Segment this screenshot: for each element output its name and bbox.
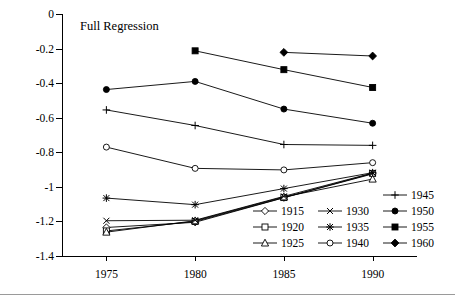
marker-open-triangle: [103, 228, 110, 235]
y-axis-tick: [56, 221, 62, 222]
marker-filled-circle: [192, 78, 198, 84]
marker-open-circle: [192, 165, 198, 171]
series-1955: [192, 48, 376, 91]
marker-filled-circle: [281, 106, 287, 112]
chart-figure: 0-0.2-0.4-0.6-0.8-1-1.2-1.4 Full Regress…: [0, 0, 455, 303]
legend-item-1950[interactable]: 1950: [382, 203, 434, 219]
y-axis-tick: [56, 83, 62, 84]
y-axis-tick-label: -1: [44, 181, 54, 193]
legend-item-label: 1935: [343, 221, 369, 233]
legend-column: 193019351940: [317, 203, 369, 251]
legend-item-label: 1915: [278, 205, 304, 217]
y-axis-tick-label: -0.2: [36, 43, 54, 55]
marker-open-triangle: [369, 175, 376, 182]
marker-asterisk: [326, 223, 334, 231]
marker-cross: [281, 193, 287, 199]
legend-item-label: 1925: [278, 237, 304, 249]
legend-item-1955[interactable]: 1955: [382, 219, 434, 235]
marker-open-square: [281, 195, 287, 201]
legend-marker-open-circle: [317, 236, 343, 250]
legend-marker-filled-diamond: [382, 236, 408, 250]
legend-item-1915[interactable]: 1915: [252, 203, 304, 219]
legend-item-1925[interactable]: 1925: [252, 235, 304, 251]
marker-filled-circle: [103, 87, 109, 93]
y-axis-tick-label: -1.4: [36, 250, 54, 262]
legend-item-label: 1930: [343, 205, 369, 217]
marker-open-circle: [103, 144, 109, 150]
legend-item-1920[interactable]: 1920: [252, 219, 304, 235]
marker-filled-diamond: [280, 48, 288, 56]
x-axis-line: [62, 256, 417, 257]
legend-column: 191519201925: [252, 203, 304, 251]
marker-asterisk: [280, 185, 288, 193]
y-axis-tick-label: 0: [48, 8, 54, 20]
marker-cross: [103, 218, 109, 224]
y-axis-tick: [56, 14, 62, 15]
marker-open-circle: [281, 167, 287, 173]
legend-item-label: 1955: [408, 221, 434, 233]
legend-item-1930[interactable]: 1930: [317, 203, 369, 219]
marker-open-circle: [370, 160, 376, 166]
series-1940: [103, 144, 375, 173]
legend-marker-cross: [317, 204, 343, 218]
marker-plus: [369, 142, 377, 150]
x-axis-tick-label: 1990: [361, 268, 384, 280]
y-axis-labels: 0-0.2-0.4-0.6-0.8-1-1.2-1.4: [0, 0, 54, 303]
marker-open-diamond: [280, 194, 287, 201]
y-axis-tick-label: -0.4: [36, 77, 54, 89]
marker-asterisk: [369, 169, 377, 177]
marker-open-diamond: [192, 219, 199, 226]
marker-open-diamond: [369, 170, 376, 177]
legend-item-label: 1960: [408, 237, 434, 249]
marker-open-square: [103, 228, 109, 234]
marker-open-square: [192, 218, 198, 224]
marker-filled-diamond: [369, 52, 377, 60]
legend-item-label: 1950: [408, 205, 434, 217]
marker-cross: [192, 217, 198, 223]
legend-marker-asterisk: [317, 220, 343, 234]
legend-item-1945[interactable]: 1945: [382, 187, 434, 203]
marker-filled-square: [192, 48, 198, 54]
y-axis-tick: [56, 118, 62, 119]
x-axis-tick: [106, 256, 107, 261]
y-axis-tick: [56, 49, 62, 50]
marker-open-diamond: [261, 207, 268, 214]
marker-filled-diamond: [391, 239, 399, 247]
series-1960: [280, 48, 377, 59]
legend-marker-open-square: [252, 220, 278, 234]
legend-item-1940[interactable]: 1940: [317, 235, 369, 251]
bottom-divider: [0, 294, 455, 295]
legend-item-label: 1945: [408, 189, 434, 201]
marker-open-triangle: [192, 217, 199, 224]
marker-plus: [103, 106, 111, 114]
y-axis-tick: [56, 152, 62, 153]
marker-plus: [280, 141, 288, 149]
x-axis-tick: [195, 256, 196, 261]
y-axis-tick-label: -0.6: [36, 112, 54, 124]
marker-open-diamond: [103, 224, 110, 231]
marker-filled-circle: [392, 208, 398, 214]
legend-column: 1945195019551960: [382, 187, 434, 251]
series-1950: [103, 78, 375, 126]
series-layer: [0, 0, 455, 303]
marker-asterisk: [103, 194, 111, 202]
marker-cross: [370, 170, 376, 176]
chart-title: Full Regression: [80, 19, 159, 34]
legend-marker-plus: [382, 188, 408, 202]
legend-marker-filled-square: [382, 220, 408, 234]
marker-open-triangle: [280, 193, 287, 200]
legend-item-1960[interactable]: 1960: [382, 235, 434, 251]
y-axis-tick-label: -0.8: [36, 146, 54, 158]
marker-filled-circle: [370, 120, 376, 126]
legend-marker-open-diamond: [252, 204, 278, 218]
marker-asterisk: [191, 201, 199, 209]
x-axis-tick-label: 1975: [95, 268, 118, 280]
y-axis-tick-label: -1.2: [36, 215, 54, 227]
legend-marker-filled-circle: [382, 204, 408, 218]
y-axis-line: [62, 14, 63, 256]
legend-item-1935[interactable]: 1935: [317, 219, 369, 235]
x-axis-tick: [284, 256, 285, 261]
legend-item-label: 1940: [343, 237, 369, 249]
marker-filled-square: [281, 67, 287, 73]
legend-item-label: 1920: [278, 221, 304, 233]
